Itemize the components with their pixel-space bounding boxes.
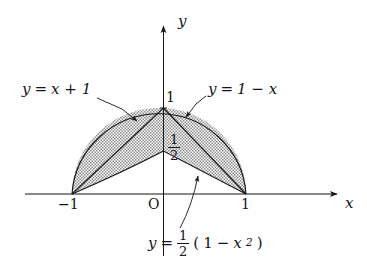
- equation-left-equals: =: [34, 82, 47, 97]
- parabola-paren-close: ): [257, 236, 263, 251]
- parabola-fraction-numerator: 1: [177, 229, 189, 242]
- parabola-paren-open: (: [193, 236, 199, 251]
- x-tick-label-neg1: −1: [58, 197, 79, 211]
- annotation-parabola: y = 1 2 ( 1 − x2 ): [148, 229, 263, 259]
- equation-right-equals: =: [220, 82, 233, 97]
- parabola-minus: −: [217, 236, 230, 251]
- equation-left-rhs: x + 1: [51, 82, 91, 97]
- x-tick-label-pos1: 1: [241, 197, 250, 211]
- y-tick-label-one-half: 1 2: [168, 133, 180, 163]
- equation-right: y = 1 − x: [208, 82, 277, 97]
- origin-label: O: [148, 197, 159, 211]
- equation-right-lhs: y: [208, 82, 216, 97]
- equation-left: y = x + 1: [22, 82, 91, 97]
- fraction-denominator: 2: [168, 149, 180, 162]
- y-tick-label-1: 1: [166, 90, 175, 104]
- equation-right-rhs: 1 − x: [237, 82, 277, 97]
- parabola-variable: x: [233, 236, 241, 251]
- annotation-left-line: y = x + 1: [22, 82, 91, 97]
- equation-parabola-lhs: y: [148, 236, 156, 251]
- shaded-region: [72, 108, 246, 194]
- equation-parabola: y = 1 2 ( 1 − x2 ): [148, 229, 263, 259]
- parabola-body-left: 1: [203, 236, 213, 251]
- annotation-right-line: y = 1 − x: [208, 82, 277, 97]
- parabola-coefficient-fraction: 1 2: [177, 229, 189, 259]
- parabola-fraction-denominator: 2: [177, 245, 189, 258]
- parabola-exponent: 2: [246, 238, 253, 249]
- x-axis-label: x: [345, 196, 353, 211]
- y-axis-label: y: [178, 14, 186, 29]
- equation-left-lhs: y: [22, 82, 30, 97]
- leader-parabola: [180, 176, 198, 228]
- fraction-one-half: 1 2: [168, 133, 180, 163]
- fraction-numerator: 1: [168, 133, 180, 146]
- equation-parabola-equals: =: [160, 236, 173, 251]
